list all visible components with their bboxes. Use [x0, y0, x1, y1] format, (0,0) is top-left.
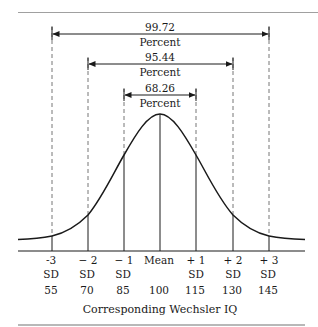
- tick-sd-unit: SD: [188, 268, 204, 280]
- range-9544-value: 95.44: [145, 51, 175, 63]
- tick-sd-label: + 3: [260, 254, 279, 266]
- tick-sd-label: − 1: [115, 254, 134, 266]
- tick-sd-label: -3: [46, 254, 56, 266]
- tick-iq-value: 85: [116, 284, 129, 296]
- caption: Corresponding Wechsler IQ: [83, 303, 238, 316]
- tick-sd-unit: SD: [43, 268, 59, 280]
- range-9972-unit: Percent: [140, 36, 182, 48]
- bell-curve-diagram: 99.72 Percent 95.44 Percent 68.26 Percen…: [0, 0, 318, 327]
- iq-labels: 55 70 85 100 115 130 145: [44, 284, 278, 296]
- tick-iq-value: 70: [80, 284, 93, 296]
- tick-sd-label: − 2: [79, 254, 98, 266]
- range-9544-unit: Percent: [140, 66, 182, 78]
- range-9972-value: 99.72: [145, 21, 175, 33]
- tick-sd-label: + 1: [187, 254, 206, 266]
- tick-sd-label: Mean: [144, 254, 174, 266]
- tick-sd-unit: SD: [79, 268, 95, 280]
- sd-unit-labels: SD SD SD SD SD SD: [43, 268, 276, 280]
- tick-sd-unit: SD: [115, 268, 131, 280]
- tick-iq-value: 100: [149, 284, 169, 296]
- tick-iq-value: 130: [222, 284, 242, 296]
- tick-sd-unit: SD: [225, 268, 241, 280]
- range-6826-value: 68.26: [145, 82, 175, 94]
- tick-iq-value: 145: [258, 284, 278, 296]
- tick-iq-value: 115: [185, 284, 205, 296]
- range-6826-unit: Percent: [140, 97, 182, 109]
- sd-labels: -3 − 2 − 1 Mean + 1 + 2 + 3: [46, 254, 279, 266]
- normal-curve: [18, 114, 305, 240]
- tick-sd-unit: SD: [260, 268, 276, 280]
- solid-guides: [52, 114, 269, 251]
- tick-sd-label: + 2: [224, 254, 243, 266]
- tick-iq-value: 55: [44, 284, 57, 296]
